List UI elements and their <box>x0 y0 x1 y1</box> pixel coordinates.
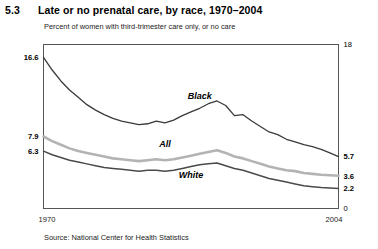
right-axis-label-1: 5.7 <box>344 152 355 161</box>
right-axis-label-0: 18 <box>344 40 352 49</box>
left-axis-label-2: 6.3 <box>28 147 39 156</box>
series-label-white: White <box>179 170 204 180</box>
series-label-all: All <box>158 139 171 149</box>
series-label-black: Black <box>188 91 213 101</box>
series-line-black <box>44 57 339 156</box>
x-axis-label-end: 2004 <box>326 215 343 224</box>
right-axis-label-3: 2.2 <box>344 184 355 193</box>
right-axis-label-2: 3.6 <box>344 172 355 181</box>
source-note: Source: National Center for Health Stati… <box>44 233 189 242</box>
figure-container: 5.3 Late or no prenatal care, by race, 1… <box>0 0 378 249</box>
line-chart: BlackAllWhite16.67.96.3185.73.62.2019702… <box>0 0 378 249</box>
x-axis-label-start: 1970 <box>39 215 56 224</box>
right-axis-label-4: 0 <box>344 204 348 213</box>
left-axis-label-1: 7.9 <box>28 132 39 141</box>
left-axis-label-0: 16.6 <box>24 53 39 62</box>
